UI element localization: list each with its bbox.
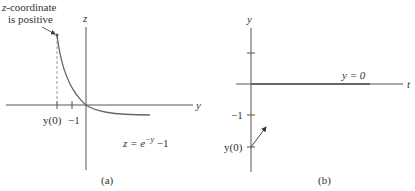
panel-a: z y y(0) −1 z-coordinate is positive z =… xyxy=(1,1,201,187)
y-axis-label: y xyxy=(195,99,201,111)
z-axis-label: z xyxy=(82,12,88,24)
panel-b: y t y = 0 −1 y(0) (b) xyxy=(224,13,411,187)
t-axis-label: t xyxy=(407,78,411,90)
y-axis-b-label: y xyxy=(246,13,252,25)
equation: z = e−y −1 xyxy=(122,135,169,149)
figure-canvas: z y y(0) −1 z-coordinate is positive z =… xyxy=(0,0,415,191)
initial-point xyxy=(55,33,58,36)
curve-z-equals-e-minus-y-minus-1 xyxy=(57,35,150,115)
equilibrium-label: y = 0 xyxy=(341,69,366,81)
annotation-line1: z-coordinate xyxy=(1,1,56,13)
tick-b-label-minus-1: −1 xyxy=(231,109,243,121)
direction-arrow xyxy=(251,127,266,147)
tick-b-label-y0: y(0) xyxy=(224,141,243,154)
caption-b: (b) xyxy=(318,174,331,187)
tick-label-minus-1: −1 xyxy=(68,114,80,126)
annotation-arrow xyxy=(42,27,55,34)
caption-a: (a) xyxy=(101,174,114,187)
annotation-line2: is positive xyxy=(8,13,53,25)
tick-label-y0: y(0) xyxy=(43,114,62,127)
